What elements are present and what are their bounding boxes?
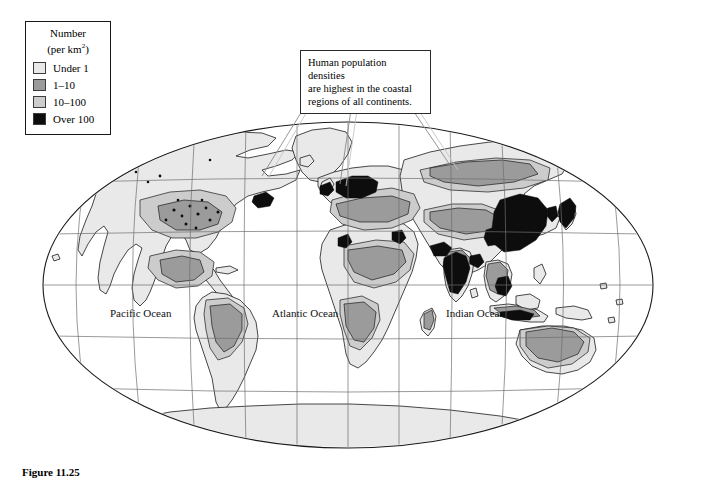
callout-line-3: regions of all continents. xyxy=(308,96,412,107)
land-island-fiji xyxy=(608,317,615,323)
callout-line-2: are highest in the coastal xyxy=(308,83,412,94)
legend-swatch-over-100 xyxy=(33,113,46,125)
legend-label-over-100: Over 100 xyxy=(53,113,94,125)
legend-item-1-10: 1–10 xyxy=(33,77,103,94)
ocean-label-indian: Indian Ocean xyxy=(446,307,505,319)
legend-swatch-10-100 xyxy=(33,96,46,108)
map-legend: Number (per km2) Under 1 1–10 10–100 Ove… xyxy=(25,21,111,135)
ocean-label-atlantic: Atlantic Ocean xyxy=(272,307,338,319)
legend-label-under-1: Under 1 xyxy=(53,62,89,74)
legend-title-line2-prefix: (per km xyxy=(47,43,82,55)
legend-label-10-100: 10–100 xyxy=(53,96,86,108)
land-new-zealand xyxy=(614,368,628,392)
legend-items: Under 1 1–10 10–100 Over 100 xyxy=(33,60,103,128)
legend-item-under-1: Under 1 xyxy=(33,60,103,77)
legend-item-over-100: Over 100 xyxy=(33,111,103,128)
figure-population-density-map: Number (per km2) Under 1 1–10 10–100 Ove… xyxy=(0,0,702,480)
legend-item-10-100: 10–100 xyxy=(33,94,103,111)
legend-title-line2-suffix: ) xyxy=(85,43,89,55)
legend-swatch-1-10 xyxy=(33,79,46,91)
callout-annotation: Human population densities are highest i… xyxy=(300,50,431,114)
ocean-label-pacific: Pacific Ocean xyxy=(110,307,171,319)
legend-title-line1: Number xyxy=(50,27,86,39)
callout-line-1: Human population densities xyxy=(308,57,386,81)
land-island-pacific-a xyxy=(600,283,607,289)
callout-text: Human population densities are highest i… xyxy=(308,56,424,108)
legend-title: Number (per km2) xyxy=(33,27,103,56)
legend-swatch-under-1 xyxy=(33,62,46,74)
figure-caption: Figure 11.25 xyxy=(22,466,80,479)
legend-label-1-10: 1–10 xyxy=(53,79,75,91)
